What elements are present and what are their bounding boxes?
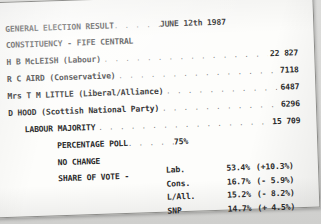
majority-row: LABOUR MAJORITY . . . . . . . . . . . . …: [24, 116, 300, 134]
percentage-poll-label: PERCENTAGE POLL: [57, 139, 128, 149]
share-of-vote-label-row: SHARE OF VOTE -: [58, 172, 129, 182]
page-title: GENERAL ELECTION RESULT: [5, 21, 114, 33]
dot-leader: . . . . . . . . . . . . . . . . . . . . …: [166, 85, 277, 96]
candidate-votes: 7118: [280, 65, 299, 74]
candidate-name: Mrs T M LITTLE (Liberal/Alliance): [7, 87, 163, 100]
dot-leader: . . . . . . . . . . . . . . . . . . . . …: [104, 51, 267, 63]
party-change: (+10.3%): [256, 161, 294, 170]
candidate-votes: 6296: [281, 99, 300, 108]
share-of-vote-label: SHARE OF VOTE -: [58, 172, 129, 182]
party-share: 14.7%: [213, 204, 251, 213]
candidate-name: D HOOD (Scottish National Party): [8, 104, 159, 117]
constituency-label: CONSTITUENCY - FIFE CENTRAL: [6, 37, 134, 49]
percentage-poll-row: PERCENTAGE POLL . . . . . . 75%: [57, 133, 301, 150]
party-change: (+ 4.5%): [257, 202, 295, 211]
percentage-poll-value: 75%: [174, 137, 188, 146]
candidate-row: Mrs T M LITTLE (Liberal/Alliance) . . . …: [7, 82, 299, 101]
candidate-name: R C AIRD (Conservative): [7, 71, 116, 83]
candidate-name: H B McLEISH (Labour): [6, 55, 101, 66]
candidate-votes: 22 827: [270, 48, 299, 57]
majority-label: LABOUR MAJORITY: [24, 123, 95, 133]
party-name: SNP: [167, 205, 207, 214]
dot-leader: . . . . . . . . . . . . . . . . . . . . …: [98, 119, 269, 132]
no-change-row: NO CHANGE: [58, 157, 101, 166]
title-dot-leader: . . . . . .: [114, 22, 160, 31]
photo-scene: GENERAL ELECTION RESULT . . . . . . JUNE…: [0, 0, 321, 224]
party-name: Lab.: [166, 164, 206, 173]
party-change: (- 8.2%): [257, 189, 295, 198]
party-name: Cons.: [166, 178, 206, 187]
no-change-label: NO CHANGE: [58, 157, 101, 166]
party-share: 16.7%: [212, 176, 250, 185]
candidate-votes: 6487: [280, 82, 299, 91]
majority-value: 15 709: [272, 116, 301, 125]
party-name: L/All.: [167, 192, 207, 201]
election-result-sheet: GENERAL ELECTION RESULT . . . . . . JUNE…: [0, 0, 320, 218]
dot-leader: . . . . . . . . . . . . . . . . . . . . …: [162, 102, 278, 113]
candidate-row: R C AIRD (Conservative) . . . . . . . . …: [7, 65, 299, 84]
dot-leader: . . . . . .: [128, 139, 174, 148]
election-date: JUNE 12th 1987: [160, 18, 226, 28]
share-of-vote-table: Lab. 53.4% (+10.3%) Cons. 16.7% (- 5.9%)…: [166, 161, 295, 214]
candidate-row: D HOOD (Scottish National Party) . . . .…: [8, 99, 300, 118]
party-share: 53.4%: [212, 163, 250, 172]
party-share: 15.2%: [213, 190, 251, 199]
sheet-text-layer: GENERAL ELECTION RESULT . . . . . . JUNE…: [0, 0, 319, 217]
candidate-row: H B McLEISH (Labour) . . . . . . . . . .…: [6, 48, 298, 67]
dot-leader: . . . . . . . . . . . . . . . . . . . . …: [118, 68, 277, 80]
document-title-row: GENERAL ELECTION RESULT . . . . . . JUNE…: [5, 15, 297, 34]
constituency-row: CONSTITUENCY - FIFE CENTRAL: [6, 37, 134, 49]
party-change: (- 5.9%): [256, 175, 294, 184]
